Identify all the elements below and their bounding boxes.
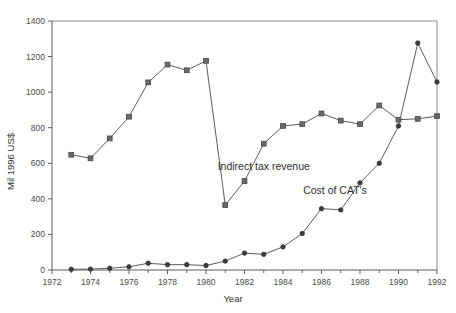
x-axis-title: Year <box>223 293 242 304</box>
y-tick-group <box>48 21 52 270</box>
x-tick-label: 1980 <box>197 277 216 287</box>
series-layer <box>69 41 440 272</box>
series-1 <box>69 58 440 207</box>
series-annotation-1: Indirect tax revenue <box>218 160 310 172</box>
x-tick-label: 1986 <box>312 277 331 287</box>
data-point-marker <box>184 68 189 73</box>
data-point-marker <box>146 261 150 265</box>
x-tick-label: 1990 <box>389 277 408 287</box>
data-point-marker <box>415 116 420 121</box>
data-point-marker <box>435 80 439 84</box>
x-tick-label: 1974 <box>81 277 100 287</box>
x-tick-label: 1988 <box>351 277 370 287</box>
data-point-marker <box>281 245 285 249</box>
x-tick-label: 1992 <box>428 277 447 287</box>
data-point-marker <box>146 80 151 85</box>
data-point-marker <box>319 111 324 116</box>
series-annotation-2: Cost of CAT's <box>303 184 367 196</box>
data-point-marker <box>127 114 132 119</box>
y-tick-label: 400 <box>31 194 45 204</box>
data-point-marker <box>377 161 381 165</box>
y-tick-label: 0 <box>40 265 45 275</box>
data-point-marker <box>300 231 304 235</box>
data-point-marker <box>185 262 189 266</box>
y-tick-label: 200 <box>31 229 45 239</box>
y-tick-label: 600 <box>31 158 45 168</box>
x-axis: 1972197419761978198019821984198619881990… <box>43 270 447 287</box>
data-point-marker <box>377 103 382 108</box>
chart-figure: 0200400600800100012001400 19721974197619… <box>0 0 456 313</box>
data-point-marker <box>69 152 74 157</box>
data-point-marker <box>69 267 73 271</box>
data-point-marker <box>165 62 170 67</box>
series-2 <box>69 41 439 272</box>
data-point-marker <box>358 122 363 127</box>
data-point-marker <box>223 259 227 263</box>
x-tick-label: 1982 <box>235 277 254 287</box>
y-tick-label: 1400 <box>26 16 45 26</box>
plot-frame <box>52 21 437 270</box>
data-point-marker <box>223 203 228 208</box>
data-point-marker <box>107 136 112 141</box>
data-point-marker <box>88 156 93 161</box>
y-axis-title: Mil 1996 US$ <box>5 132 16 190</box>
data-point-marker <box>204 58 209 63</box>
data-point-marker <box>300 122 305 127</box>
data-point-marker <box>88 267 92 271</box>
y-tick-label: 1000 <box>26 87 45 97</box>
line-chart: 0200400600800100012001400 19721974197619… <box>0 0 456 313</box>
series-line <box>71 61 437 205</box>
y-tick-label-group: 0200400600800100012001400 <box>26 16 45 275</box>
data-point-marker <box>165 262 169 266</box>
data-point-marker <box>338 118 343 123</box>
data-point-marker <box>319 206 323 210</box>
x-tick-label-group: 1972197419761978198019821984198619881990… <box>43 277 447 287</box>
data-point-marker <box>281 124 286 129</box>
y-axis: 0200400600800100012001400 <box>26 16 52 275</box>
x-tick-label: 1984 <box>274 277 293 287</box>
series-line <box>71 43 437 269</box>
x-tick-label: 1972 <box>43 277 62 287</box>
data-point-marker <box>339 208 343 212</box>
data-point-marker <box>127 265 131 269</box>
data-point-marker <box>262 252 266 256</box>
x-tick-label: 1978 <box>158 277 177 287</box>
data-point-marker <box>108 266 112 270</box>
y-tick-label: 1200 <box>26 52 45 62</box>
data-point-marker <box>396 124 400 128</box>
data-point-marker <box>242 179 247 184</box>
data-point-marker <box>204 263 208 267</box>
data-point-marker <box>435 114 440 119</box>
data-point-marker <box>242 251 246 255</box>
y-tick-label: 800 <box>31 123 45 133</box>
data-point-marker <box>261 141 266 146</box>
data-point-marker <box>416 41 420 45</box>
x-tick-label: 1976 <box>120 277 139 287</box>
annotation-layer: Indirect tax revenueCost of CAT's <box>218 160 367 195</box>
